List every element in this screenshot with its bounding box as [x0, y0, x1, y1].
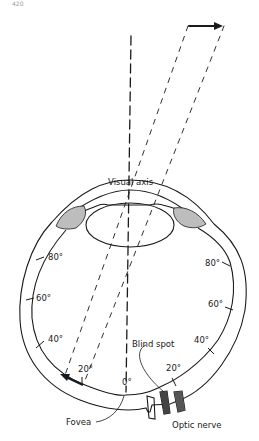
angle-right-60: 60°	[208, 300, 223, 309]
blind-spot-leader	[140, 345, 164, 392]
angle-right-80: 80°	[205, 259, 220, 268]
retinal-image-arrow-shaft	[66, 377, 83, 385]
visual-axis-label: Visual axis	[108, 178, 153, 187]
object-arrow-head	[214, 22, 223, 30]
ciliary-body-left	[56, 206, 86, 229]
angle-right-40: 40°	[194, 336, 209, 345]
angle-right-20: 20°	[166, 364, 181, 373]
cornea-inner	[70, 190, 190, 214]
angle-center-0: 0°	[122, 378, 132, 387]
ray-upper	[64, 26, 188, 378]
eye-diagram: 420	[0, 0, 259, 441]
tick-right-80	[222, 262, 230, 266]
fovea-leader	[96, 396, 124, 422]
fovea-label: Fovea	[66, 418, 91, 427]
retinal-image-arrow-head	[60, 374, 70, 381]
angle-left-40: 40°	[48, 335, 63, 344]
sclera-outer	[20, 222, 246, 412]
angle-left-60: 60°	[36, 294, 51, 303]
angle-left-80: 80°	[48, 253, 63, 262]
ciliary-body-right	[173, 208, 206, 228]
lens	[86, 203, 174, 247]
blind-spot-label: Blind spot	[132, 340, 174, 349]
iris	[70, 204, 190, 214]
tick-left-80	[36, 257, 44, 260]
eye-cross-section-drawing	[0, 0, 259, 441]
visual-axis-line	[126, 36, 131, 392]
optic-nerve-label: Optic nerve	[172, 421, 222, 430]
angle-left-20: 20°	[78, 365, 93, 374]
